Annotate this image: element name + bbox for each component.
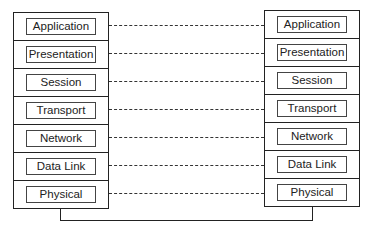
layer-label: Presentation xyxy=(277,44,347,61)
peer-link-session xyxy=(109,81,264,82)
left-layer-physical: Physical xyxy=(14,181,108,209)
peer-link-application xyxy=(109,25,264,26)
left-osi-stack: Application Presentation Session Transpo… xyxy=(13,12,109,209)
right-layer-application: Application xyxy=(265,11,359,39)
right-layer-network: Network xyxy=(265,123,359,151)
right-layer-transport: Transport xyxy=(265,95,359,123)
left-layer-network: Network xyxy=(14,125,108,153)
layer-label: Physical xyxy=(277,184,347,201)
left-layer-application: Application xyxy=(14,13,108,41)
layer-label: Session xyxy=(26,74,96,91)
layer-label: Transport xyxy=(277,100,347,117)
layer-label: Physical xyxy=(26,186,96,203)
physical-medium-right-drop xyxy=(312,207,313,221)
layer-label: Data Link xyxy=(277,156,347,173)
right-layer-physical: Physical xyxy=(265,179,359,207)
layer-label: Transport xyxy=(26,102,96,119)
peer-link-data-link xyxy=(109,165,264,166)
layer-label: Network xyxy=(277,128,347,145)
layer-label: Data Link xyxy=(26,158,96,175)
right-layer-presentation: Presentation xyxy=(265,39,359,67)
peer-link-transport xyxy=(109,109,264,110)
physical-medium-link xyxy=(60,220,313,221)
peer-link-physical xyxy=(109,193,264,194)
right-layer-session: Session xyxy=(265,67,359,95)
left-layer-transport: Transport xyxy=(14,97,108,125)
layer-label: Network xyxy=(26,130,96,147)
layer-label: Application xyxy=(277,16,347,33)
left-layer-presentation: Presentation xyxy=(14,41,108,69)
left-layer-data-link: Data Link xyxy=(14,153,108,181)
right-layer-data-link: Data Link xyxy=(265,151,359,179)
layer-label: Presentation xyxy=(26,46,96,63)
left-layer-session: Session xyxy=(14,69,108,97)
layer-label: Session xyxy=(277,72,347,89)
right-osi-stack: Application Presentation Session Transpo… xyxy=(264,10,360,207)
layer-label: Application xyxy=(26,18,96,35)
peer-link-network xyxy=(109,137,264,138)
peer-link-presentation xyxy=(109,53,264,54)
